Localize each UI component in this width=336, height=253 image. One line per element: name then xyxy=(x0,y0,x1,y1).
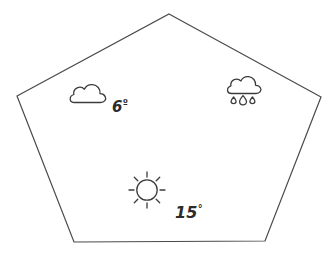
cloud-temperature-unit: º xyxy=(123,97,128,108)
sun-temperature-unit: ° xyxy=(198,203,203,214)
sun-temperature-value: 15 xyxy=(175,203,198,222)
cloud-temperature-label: 6º xyxy=(112,98,128,115)
diagram-canvas: 6º 15° xyxy=(0,0,336,253)
cloud-temperature-value: 6 xyxy=(112,98,123,116)
sun-temperature-label: 15° xyxy=(175,204,203,221)
weather-pentagon-figure xyxy=(0,0,336,253)
pentagon-shape xyxy=(17,14,321,242)
